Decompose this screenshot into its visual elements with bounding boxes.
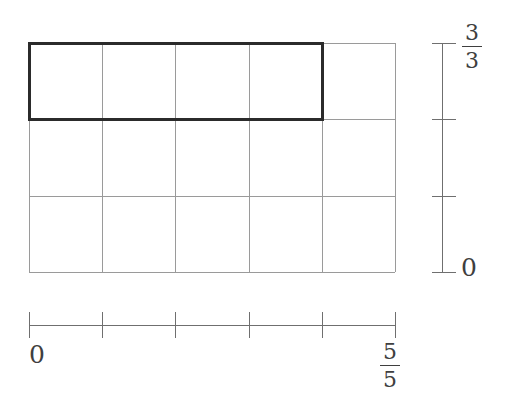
fraction-three-thirds: 3 3 xyxy=(462,22,482,73)
fraction-denominator: 5 xyxy=(380,368,400,391)
fraction-numerator: 3 xyxy=(462,22,482,45)
fraction-five-fifths: 5 5 xyxy=(380,341,400,392)
x-axis xyxy=(29,312,396,337)
fraction-numerator: 5 xyxy=(380,341,400,364)
grid-lines xyxy=(29,43,396,273)
y-axis-max-label: 3 3 xyxy=(462,22,482,73)
fraction-bar xyxy=(380,365,400,366)
fraction-grid-diagram xyxy=(0,0,515,413)
fraction-bar xyxy=(462,46,482,47)
x-axis-max-label: 5 5 xyxy=(380,341,400,392)
figure-canvas: 3 3 0 0 5 5 xyxy=(0,0,515,413)
y-axis xyxy=(432,43,457,273)
y-axis-min-label: 0 xyxy=(461,255,477,280)
fraction-denominator: 3 xyxy=(462,49,482,72)
x-axis-min-label: 0 xyxy=(29,342,45,367)
